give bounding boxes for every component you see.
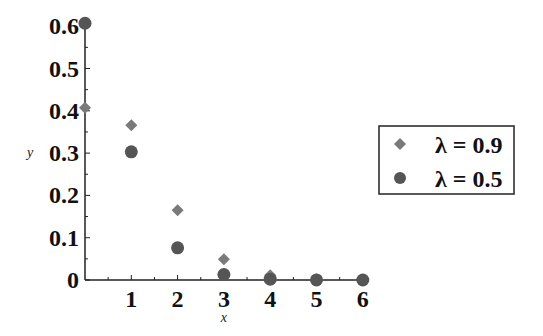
circle-point bbox=[171, 241, 184, 254]
circle-point bbox=[310, 273, 323, 286]
diamond-point bbox=[172, 204, 184, 216]
circle-point bbox=[356, 274, 369, 287]
y-axis-label: y bbox=[25, 145, 34, 160]
data-points bbox=[79, 17, 370, 287]
y-tick-label: 0.6 bbox=[49, 13, 79, 39]
circle-point bbox=[217, 268, 230, 281]
diamond-point bbox=[218, 253, 230, 265]
x-tick-label: 2 bbox=[172, 286, 184, 312]
x-tick-label: 5 bbox=[311, 286, 323, 312]
x-tick-label: 4 bbox=[264, 286, 276, 312]
legend-label: λ = 0.5 bbox=[435, 166, 502, 192]
y-tick-label: 0.3 bbox=[49, 140, 79, 166]
circle-point bbox=[264, 273, 277, 286]
x-tick-label: 6 bbox=[357, 286, 369, 312]
y-tick-label: 0 bbox=[67, 267, 79, 293]
y-tick-label: 0.1 bbox=[49, 225, 79, 251]
legend-label: λ = 0.9 bbox=[435, 132, 502, 158]
legend: λ = 0.9 λ = 0.5 bbox=[379, 126, 514, 194]
diamond-point bbox=[125, 119, 137, 131]
circle-point bbox=[79, 17, 92, 30]
x-tick-label: 1 bbox=[125, 286, 137, 312]
y-tick-label: 0.2 bbox=[49, 182, 79, 208]
x-axis-label: x bbox=[220, 310, 228, 325]
x-tick-label: 3 bbox=[218, 286, 230, 312]
y-tick-label: 0.5 bbox=[49, 56, 79, 82]
circle-marker-icon bbox=[394, 172, 406, 184]
circle-point bbox=[125, 145, 138, 158]
y-tick-label: 0.4 bbox=[49, 98, 79, 124]
scatter-chart: 00.10.20.30.40.50.6123456xy λ = 0.9 λ = … bbox=[0, 0, 543, 336]
diamond-point bbox=[79, 102, 91, 114]
